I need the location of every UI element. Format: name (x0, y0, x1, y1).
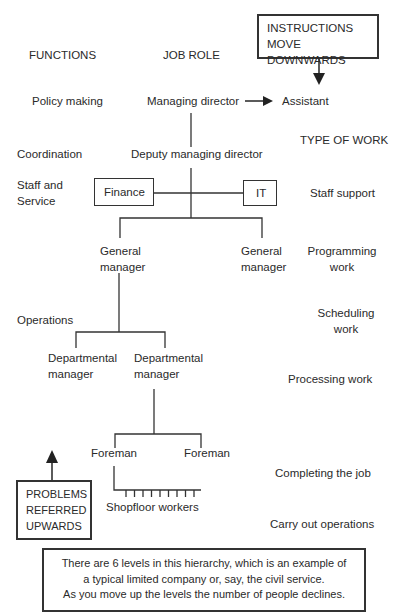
work-programming-1: Programming (306, 244, 378, 259)
work-staff-support: Staff support (310, 186, 375, 201)
role-departmental-manager-right-2: manager (134, 367, 179, 382)
instructions-line-1: INSTRUCTIONS (267, 20, 377, 36)
role-general-manager-left-2: manager (100, 260, 145, 275)
header-functions: FUNCTIONS (29, 48, 96, 63)
problems-line-2: REFERRED (26, 502, 90, 518)
role-general-manager-left-1: General (100, 244, 141, 259)
role-it-box: IT (243, 180, 277, 206)
arrow-down-icon (313, 73, 325, 85)
arrow-up-icon (46, 450, 58, 463)
note-line-2: a typical limited company or, say, the c… (44, 572, 364, 588)
arrow-right-icon (263, 96, 273, 106)
work-scheduling-1: Scheduling (310, 306, 382, 321)
header-type-of-work: TYPE OF WORK (300, 133, 388, 148)
role-deputy-managing-director: Deputy managing director (131, 147, 263, 162)
function-staff-service-1: Staff and (17, 178, 63, 193)
function-policy-making: Policy making (32, 94, 103, 109)
role-shopfloor-workers: Shopfloor workers (106, 500, 199, 515)
role-general-manager-right-1: General (241, 244, 282, 259)
header-job-role: JOB ROLE (163, 48, 220, 63)
instructions-line-2: MOVE DOWNWARDS (267, 36, 377, 68)
role-foreman-right: Foreman (184, 446, 230, 461)
hierarchy-note: There are 6 levels in this hierarchy, wh… (42, 548, 366, 612)
role-departmental-manager-right-1: Departmental (134, 351, 203, 366)
role-foreman-left: Foreman (91, 446, 137, 461)
function-coordination: Coordination (17, 147, 82, 162)
problems-line-1: PROBLEMS (26, 486, 90, 502)
role-managing-director: Managing director (147, 94, 239, 109)
note-line-3: As you move up the levels the number of … (44, 587, 364, 603)
role-assistant: Assistant (282, 94, 329, 109)
work-carry-out-operations: Carry out operations (270, 517, 374, 532)
role-general-manager-right-2: manager (241, 260, 286, 275)
work-processing: Processing work (288, 372, 372, 387)
work-completing-the-job: Completing the job (275, 466, 371, 481)
work-scheduling-2: work (310, 322, 382, 337)
problems-callout: PROBLEMS REFERRED UPWARDS (16, 480, 92, 540)
note-line-1: There are 6 levels in this hierarchy, wh… (44, 556, 364, 572)
function-operations: Operations (17, 313, 73, 328)
role-departmental-manager-left-2: manager (48, 367, 93, 382)
work-programming-2: work (306, 260, 378, 275)
role-finance-box: Finance (94, 178, 154, 206)
role-it: IT (256, 186, 266, 201)
role-departmental-manager-left-1: Departmental (48, 351, 117, 366)
function-staff-service-2: Service (17, 194, 55, 209)
role-finance: Finance (104, 185, 145, 200)
instructions-callout: INSTRUCTIONS MOVE DOWNWARDS (257, 14, 379, 59)
problems-line-3: UPWARDS (26, 518, 90, 534)
